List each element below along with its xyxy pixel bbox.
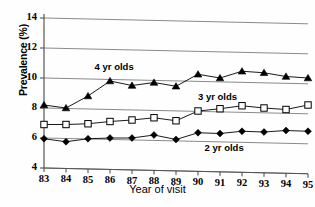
- x-tick-label: 85: [77, 174, 99, 185]
- series-annotation: 4 yr olds: [95, 61, 134, 72]
- y-tick-label: 10: [13, 71, 37, 82]
- x-tick-label: 95: [297, 179, 315, 190]
- x-tick-label: 92: [231, 177, 253, 188]
- series-annotation: 2 yr olds: [205, 142, 244, 153]
- x-tick-label: 90: [187, 176, 209, 187]
- prevalence-line-chart: Prevalence (%) Year of visit 468101214 8…: [0, 0, 315, 207]
- x-tick-label: 87: [121, 175, 143, 186]
- y-tick-label: 14: [13, 11, 37, 22]
- series-4-yr-olds: [40, 68, 312, 111]
- series-3-yr-olds: [41, 102, 311, 128]
- y-tick-label: 8: [13, 101, 37, 112]
- x-tick-label: 88: [143, 175, 165, 186]
- x-tick-label: 94: [275, 178, 297, 189]
- series-2-yr-olds: [41, 127, 312, 145]
- x-tick-label: 83: [33, 173, 55, 184]
- x-tick-label: 84: [55, 173, 77, 184]
- y-tick-label: 4: [13, 161, 37, 172]
- x-tick-label: 89: [165, 176, 187, 187]
- series-annotation: 3 yr olds: [198, 91, 237, 102]
- y-tick-label: 12: [13, 41, 37, 52]
- x-tick-label: 91: [209, 177, 231, 188]
- x-tick-label: 93: [253, 178, 275, 189]
- y-tick-label: 6: [13, 131, 37, 142]
- x-tick-label: 86: [99, 174, 121, 185]
